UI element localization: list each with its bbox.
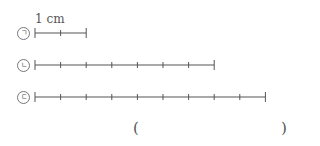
ruler-line-3 xyxy=(35,92,265,102)
ruler-line-1 xyxy=(35,28,86,38)
answer-blank[interactable] xyxy=(145,119,275,137)
answer-close-paren: ) xyxy=(281,119,287,137)
answer-open-paren: ( xyxy=(133,119,139,137)
ruler-line-2 xyxy=(35,60,214,70)
